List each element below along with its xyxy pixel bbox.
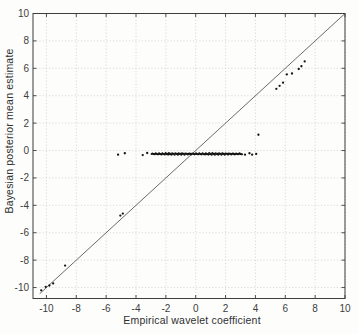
data-point [278, 85, 280, 87]
data-point [291, 72, 293, 74]
y-tick-label: -10 [15, 282, 30, 293]
data-point [304, 60, 306, 62]
scatter-figure: -10-8-6-4-20246810-10-8-6-4-20246810 Emp… [0, 0, 358, 334]
x-axis-label: Empirical wavelet coefficient [123, 314, 261, 326]
data-point [117, 153, 119, 155]
data-point [255, 153, 257, 155]
x-tick-label: 4 [253, 303, 259, 314]
x-tick-label: 2 [223, 303, 229, 314]
data-point [48, 284, 50, 286]
y-tick-label: 4 [23, 90, 29, 101]
data-point [52, 282, 54, 284]
data-point [251, 153, 253, 155]
x-tick-label: -6 [102, 303, 111, 314]
y-tick-label: 0 [23, 145, 29, 156]
x-tick-label: -4 [132, 303, 141, 314]
x-tick-label: 10 [339, 303, 351, 314]
x-tick-label: -2 [161, 303, 170, 314]
data-point [275, 88, 277, 90]
data-point [300, 65, 302, 67]
x-tick-label: -8 [72, 303, 81, 314]
data-point [282, 82, 284, 84]
x-tick-label: 8 [312, 303, 318, 314]
y-tick-label: 2 [23, 118, 29, 129]
y-tick-label: -2 [20, 172, 29, 183]
y-tick-label: -6 [20, 227, 29, 238]
y-axis-label: Bayesian posterior mean estimate [3, 48, 15, 213]
data-point [122, 212, 124, 214]
x-tick-label: 6 [283, 303, 289, 314]
data-point [257, 134, 259, 136]
data-point [286, 73, 288, 75]
data-point [45, 286, 47, 288]
data-point [40, 289, 42, 291]
y-tick-label: 10 [18, 8, 30, 19]
data-point [298, 68, 300, 70]
data-point [248, 152, 250, 154]
y-tick-label: 6 [23, 63, 29, 74]
data-point [124, 152, 126, 154]
data-point [119, 214, 121, 216]
data-point [244, 153, 246, 155]
x-tick-label: -10 [39, 303, 54, 314]
y-tick-label: -4 [20, 200, 29, 211]
data-point [146, 152, 148, 154]
y-tick-label: 8 [23, 35, 29, 46]
x-tick-label: 0 [193, 303, 199, 314]
plot-canvas: -10-8-6-4-20246810-10-8-6-4-20246810 [0, 0, 358, 334]
data-point [142, 154, 144, 156]
data-point [64, 264, 66, 266]
dense-band-point [241, 153, 243, 155]
y-tick-label: -8 [20, 255, 29, 266]
